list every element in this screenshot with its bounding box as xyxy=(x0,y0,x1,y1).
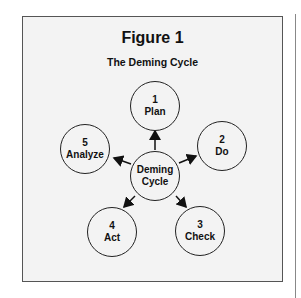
step-number: 1 xyxy=(152,94,158,106)
step-number: 5 xyxy=(82,137,88,149)
center-deming-cycle: Deming Cycle xyxy=(130,151,180,201)
step-analyze: 5 Analyze xyxy=(60,124,110,174)
step-label: Do xyxy=(215,146,228,158)
step-label: Plan xyxy=(144,106,165,118)
step-number: 3 xyxy=(197,219,203,231)
step-label: Check xyxy=(185,231,215,243)
step-number: 4 xyxy=(109,220,115,232)
step-number: 2 xyxy=(219,134,225,146)
center-line1: Deming xyxy=(137,164,174,176)
step-check: 3 Check xyxy=(175,206,225,256)
step-label: Act xyxy=(104,232,120,244)
step-label: Analyze xyxy=(66,149,104,161)
step-act: 4 Act xyxy=(87,207,137,257)
step-do: 2 Do xyxy=(197,121,247,171)
center-line2: Cycle xyxy=(142,176,169,188)
step-plan: 1 Plan xyxy=(130,81,180,131)
arrows xyxy=(0,0,301,298)
